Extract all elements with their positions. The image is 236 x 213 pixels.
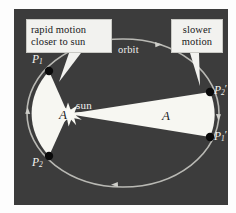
point-P1-marker — [45, 67, 53, 75]
orbit-label: orbit — [118, 44, 139, 55]
point-label-P1prime-letter: P — [214, 130, 221, 142]
callout-rapid-motion-line2: closer to sun — [31, 36, 108, 48]
callout-slower-motion: slower motion — [171, 19, 223, 53]
point-label-P2: P2 — [32, 156, 43, 169]
diagram-panel: rapid motion closer to sun slower motion… — [14, 9, 228, 205]
point-P1prime-marker — [206, 133, 214, 141]
point-label-P1prime-prime: ′ — [225, 128, 227, 140]
point-label-P2-subscript: 2 — [39, 160, 43, 169]
point-label-P2prime: P2′ — [214, 82, 227, 97]
orbit-direction-arrow-right — [216, 114, 221, 121]
point-P2-marker — [45, 152, 53, 160]
callout-tail-right — [190, 53, 200, 86]
sun-label: sun — [76, 99, 92, 111]
callout-slower-motion-line1: slower — [175, 24, 219, 36]
point-label-P1prime: P1′ — [214, 128, 227, 143]
callout-slower-motion-line2: motion — [175, 36, 219, 48]
kepler-second-law-figure: rapid motion closer to sun slower motion… — [0, 0, 236, 213]
point-label-P2-letter: P — [32, 156, 39, 168]
callout-rapid-motion: rapid motion closer to sun — [26, 19, 112, 53]
orbit-direction-arrow-top — [155, 42, 162, 47]
area-label-left: A — [59, 107, 67, 123]
point-label-P2prime-letter: P — [214, 84, 221, 96]
point-label-P1-letter: P — [32, 53, 39, 65]
callout-tail-left — [59, 53, 81, 82]
point-label-P2prime-prime: ′ — [225, 82, 227, 94]
point-label-P1-subscript: 1 — [39, 57, 43, 66]
point-P2prime-marker — [206, 88, 214, 96]
point-label-P1: P1 — [32, 53, 43, 66]
orbit-direction-arrow-left — [25, 107, 30, 114]
callout-rapid-motion-line1: rapid motion — [31, 24, 108, 36]
area-label-right: A — [162, 108, 170, 124]
